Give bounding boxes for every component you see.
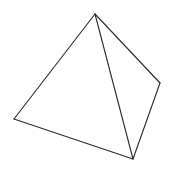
edge-left-bottom: [14, 119, 133, 159]
tetrahedron-figure: [0, 0, 170, 173]
edge-top-bottom: [95, 14, 133, 159]
edge-right-top: [95, 14, 160, 83]
edge-bottom-right: [133, 83, 160, 159]
edge-top-left: [14, 14, 95, 119]
diagram-canvas: [0, 0, 170, 173]
